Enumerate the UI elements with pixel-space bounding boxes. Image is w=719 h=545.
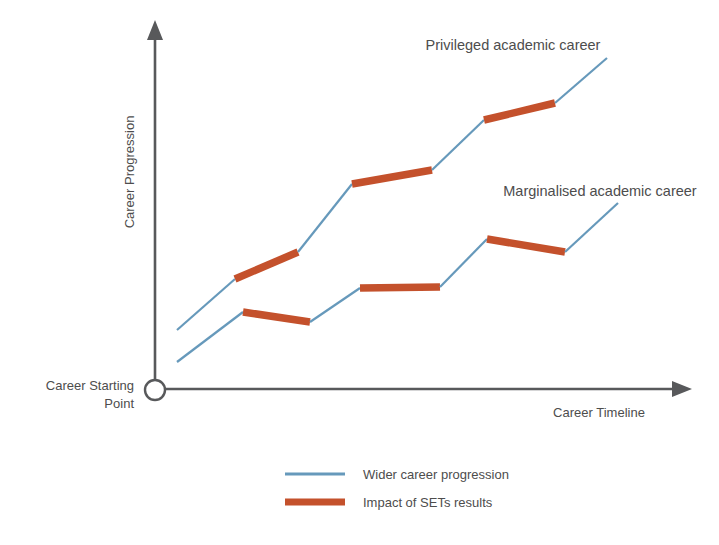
series-segment-blue — [555, 58, 607, 103]
series-segment-orange — [352, 170, 432, 184]
origin-label-line2: Point — [104, 396, 134, 411]
legend: Wider career progression Impact of SETs … — [285, 467, 509, 510]
y-axis-label: Career Progression — [122, 116, 137, 229]
legend-label-impact-of-sets-results: Impact of SETs results — [363, 495, 493, 510]
x-axis — [155, 381, 692, 397]
series-segment-blue — [432, 120, 484, 170]
origin-circle-icon — [145, 380, 165, 400]
career-progression-chart: Career Progression Career Timeline Caree… — [0, 0, 719, 545]
series-segment-blue — [440, 239, 487, 287]
series-segment-orange — [360, 287, 440, 288]
chart-canvas: Career Progression Career Timeline Caree… — [0, 0, 719, 545]
series-segment-blue — [177, 279, 235, 330]
series-segment-orange — [235, 252, 298, 279]
series-segment-blue — [565, 203, 618, 252]
series-segment-orange — [243, 312, 310, 322]
series-label-marginalised: Marginalised academic career — [503, 183, 697, 199]
series-marginalised-academic-career — [177, 203, 618, 362]
series-label-privileged: Privileged academic career — [426, 37, 601, 53]
series-segment-blue — [177, 312, 243, 362]
series-segment-blue — [310, 288, 360, 322]
origin-label-line1: Career Starting — [46, 378, 134, 393]
series-segment-orange — [487, 239, 565, 252]
y-axis-arrow-icon — [147, 20, 163, 40]
x-axis-label: Career Timeline — [553, 405, 645, 420]
series-segment-blue — [298, 184, 352, 252]
y-axis — [147, 20, 163, 388]
legend-label-wider-career-progression: Wider career progression — [363, 467, 509, 482]
x-axis-arrow-icon — [672, 381, 692, 397]
series-segment-orange — [484, 103, 555, 120]
